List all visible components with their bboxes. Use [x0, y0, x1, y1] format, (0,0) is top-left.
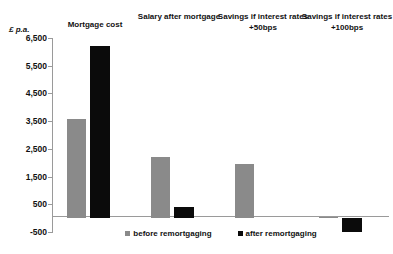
- plot-area: [53, 38, 389, 232]
- category-header: Savings if interest rates +100bps: [297, 12, 393, 33]
- y-tick-label: 6,500: [3, 33, 47, 43]
- y-tick-label: 1,500: [3, 172, 47, 182]
- legend-swatch-before-icon: [125, 231, 130, 236]
- legend-swatch-after-icon: [238, 231, 243, 236]
- bar: [235, 164, 255, 218]
- legend-label-before: before remortgaging: [133, 229, 211, 238]
- legend-item-before: before remortgaging: [125, 229, 211, 238]
- y-tick-label: 2,500: [3, 144, 47, 154]
- chart-legend: before remortgaging after remortgaging: [53, 225, 389, 241]
- legend-label-after: after remortgaging: [246, 229, 317, 238]
- bar: [151, 157, 171, 218]
- y-tick-label: -500: [3, 227, 47, 237]
- bar-chart: £ p.a. 6,5005,5004,5003,5002,5001,500500…: [0, 0, 393, 254]
- y-tick-label: 500: [3, 199, 47, 209]
- bar: [67, 119, 87, 218]
- y-tick-label: 3,500: [3, 116, 47, 126]
- y-tick-label: 5,500: [3, 61, 47, 71]
- bar: [90, 46, 110, 218]
- bar: [319, 217, 339, 218]
- y-axis-tick-labels: 6,5005,5004,5003,5002,5001,500500-500: [0, 0, 47, 254]
- bar: [174, 207, 194, 218]
- legend-item-after: after remortgaging: [238, 229, 317, 238]
- y-tick-label: 4,500: [3, 88, 47, 98]
